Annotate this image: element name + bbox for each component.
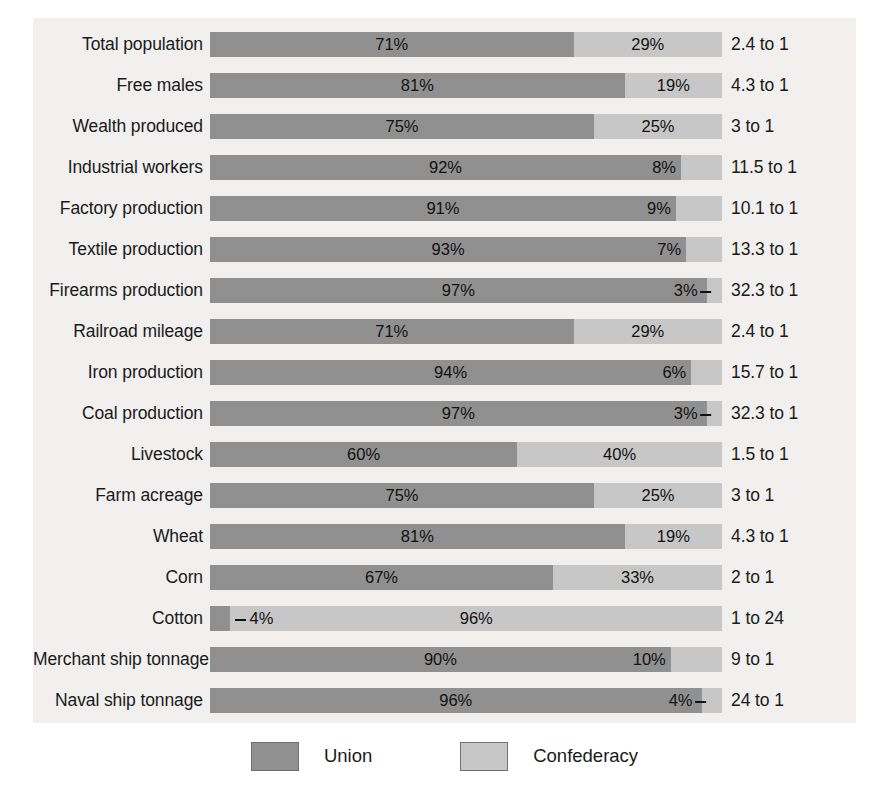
union-segment <box>210 606 230 631</box>
chart-row: Iron production94%6%15.7 to 1 <box>33 352 856 393</box>
category-label: Naval ship tonnage <box>33 692 210 710</box>
chart-row: Naval ship tonnage96%4%24 to 1 <box>33 680 856 721</box>
stacked-bar: 75%25% <box>210 483 722 508</box>
confederacy-percent-label: 6% <box>662 360 691 385</box>
union-percent-label: 97% <box>442 401 475 426</box>
leader-dash <box>235 619 246 621</box>
chart-row: Livestock60%40%1.5 to 1 <box>33 434 856 475</box>
confederacy-percent-label: 29% <box>631 32 664 57</box>
ratio-label: 3 to 1 <box>731 487 774 505</box>
ratio-label: 11.5 to 1 <box>731 159 797 177</box>
ratio-label: 4.3 to 1 <box>731 528 789 546</box>
confederacy-percent-label: 19% <box>657 524 690 549</box>
stacked-bar: 93%7% <box>210 237 722 262</box>
confederacy-percent-label: 7% <box>657 237 686 262</box>
confederacy-percent-label: 10% <box>633 647 671 672</box>
ratio-label: 9 to 1 <box>731 651 774 669</box>
confederacy-percent-label: 33% <box>621 565 654 590</box>
chart-row: Textile production93%7%13.3 to 1 <box>33 229 856 270</box>
confederacy-percent-label: 29% <box>631 319 664 344</box>
category-label: Free males <box>33 77 210 95</box>
ratio-label: 13.3 to 1 <box>731 241 798 259</box>
legend-swatch <box>251 742 299 771</box>
chart-row: Total population71%29%2.4 to 1 <box>33 24 856 65</box>
legend-swatch <box>460 742 508 771</box>
stacked-bar: 4%96% <box>210 606 722 631</box>
ratio-label: 4.3 to 1 <box>731 77 789 95</box>
category-label: Corn <box>33 569 210 587</box>
category-label: Total population <box>33 36 210 54</box>
union-percent-label: 81% <box>401 524 434 549</box>
legend-label: Confederacy <box>533 747 638 766</box>
category-label: Industrial workers <box>33 159 210 177</box>
confederacy-percent-label: 40% <box>603 442 636 467</box>
chart-row-list: Total population71%29%2.4 to 1Free males… <box>33 24 856 721</box>
union-percent-label: 96% <box>439 688 472 713</box>
ratio-label: 2.4 to 1 <box>731 36 789 54</box>
chart-plot-area: Total population71%29%2.4 to 1Free males… <box>33 18 856 723</box>
union-percent-label: 97% <box>442 278 475 303</box>
union-percent-label: 4% <box>232 606 273 631</box>
ratio-label: 32.3 to 1 <box>731 405 798 423</box>
stacked-bar: 71%29% <box>210 32 722 57</box>
ratio-label: 32.3 to 1 <box>731 282 798 300</box>
confederacy-percent-label: 25% <box>641 483 674 508</box>
leader-dash <box>696 701 707 703</box>
chart-row: Cotton4%96%1 to 24 <box>33 598 856 639</box>
union-percent-label: 91% <box>426 196 459 221</box>
ratio-label: 15.7 to 1 <box>731 364 798 382</box>
ratio-label: 3 to 1 <box>731 118 774 136</box>
stacked-bar: 96%4% <box>210 688 722 713</box>
leader-dash <box>701 414 712 416</box>
confederacy-percent-label: 8% <box>652 155 681 180</box>
ratio-label: 2 to 1 <box>731 569 774 587</box>
union-percent-label: 90% <box>424 647 457 672</box>
stacked-bar: 81%19% <box>210 524 722 549</box>
confederacy-percent-label: 3% <box>674 278 720 303</box>
chart-row: Industrial workers92%8%11.5 to 1 <box>33 147 856 188</box>
leader-dash <box>701 291 712 293</box>
stacked-bar: 97%3% <box>210 401 722 426</box>
confederacy-percent-text: 3% <box>674 281 698 299</box>
category-label: Iron production <box>33 364 210 382</box>
union-percent-label: 81% <box>401 73 434 98</box>
category-label: Livestock <box>33 446 210 464</box>
ratio-label: 10.1 to 1 <box>731 200 798 218</box>
category-label: Wheat <box>33 528 210 546</box>
union-percent-text: 4% <box>249 609 273 627</box>
confederacy-percent-label: 25% <box>641 114 674 139</box>
stacked-bar: 90%10% <box>210 647 722 672</box>
legend-item: Confederacy <box>460 742 638 771</box>
union-percent-label: 67% <box>365 565 398 590</box>
category-label: Wealth produced <box>33 118 210 136</box>
stacked-bar: 91%9% <box>210 196 722 221</box>
category-label: Cotton <box>33 610 210 628</box>
confederacy-percent-label: 4% <box>669 688 715 713</box>
stacked-bar: 67%33% <box>210 565 722 590</box>
confederacy-percent-text: 4% <box>669 691 693 709</box>
chart-row: Coal production97%3%32.3 to 1 <box>33 393 856 434</box>
confederacy-percent-label: 3% <box>674 401 720 426</box>
chart-row: Wealth produced75%25%3 to 1 <box>33 106 856 147</box>
chart-row: Free males81%19%4.3 to 1 <box>33 65 856 106</box>
stacked-bar: 81%19% <box>210 73 722 98</box>
category-label: Farm acreage <box>33 487 210 505</box>
ratio-label: 24 to 1 <box>731 692 784 710</box>
chart-legend: UnionConfederacy <box>0 742 889 771</box>
confederacy-percent-text: 3% <box>674 404 698 422</box>
chart-row: Farm acreage75%25%3 to 1 <box>33 475 856 516</box>
chart-row: Merchant ship tonnage90%10%9 to 1 <box>33 639 856 680</box>
chart-row: Railroad mileage71%29%2.4 to 1 <box>33 311 856 352</box>
chart-row: Wheat81%19%4.3 to 1 <box>33 516 856 557</box>
union-percent-label: 92% <box>429 155 462 180</box>
chart-row: Factory production91%9%10.1 to 1 <box>33 188 856 229</box>
union-percent-label: 71% <box>375 319 408 344</box>
ratio-label: 1.5 to 1 <box>731 446 789 464</box>
ratio-label: 2.4 to 1 <box>731 323 789 341</box>
category-label: Merchant ship tonnage <box>33 651 210 669</box>
category-label: Firearms production <box>33 282 210 300</box>
stacked-bar: 94%6% <box>210 360 722 385</box>
confederacy-percent-label: 9% <box>647 196 676 221</box>
union-percent-label: 75% <box>385 114 418 139</box>
union-percent-label: 71% <box>375 32 408 57</box>
